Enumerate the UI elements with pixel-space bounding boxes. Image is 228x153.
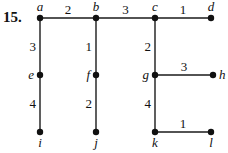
node-a <box>37 15 43 21</box>
problem-number: 15. <box>3 9 22 25</box>
node-label-g: g <box>143 67 150 82</box>
edge-weight-e-i: 4 <box>30 96 37 111</box>
edge-weight-k-l: 1 <box>180 116 187 131</box>
node-label-d: d <box>208 0 215 14</box>
node-label-e: e <box>28 67 34 82</box>
edge-weight-f-j: 2 <box>86 96 93 111</box>
edge-weight-a-b: 2 <box>65 2 72 17</box>
edge-weight-g-k: 4 <box>145 96 152 111</box>
edge-weights-group: 23134122341 <box>30 2 188 131</box>
node-label-f: f <box>86 67 92 82</box>
node-label-l: l <box>209 135 213 150</box>
edges-group <box>40 18 213 132</box>
node-d <box>208 15 214 21</box>
weighted-tree-diagram: 15. 23134122341 abcdefghijkl <box>0 0 228 153</box>
node-label-c: c <box>152 0 158 14</box>
edge-weight-g-h: 3 <box>181 59 188 74</box>
node-label-k: k <box>152 135 158 150</box>
node-h <box>210 72 216 78</box>
edge-weight-c-d: 1 <box>180 2 187 17</box>
edge-weight-b-c: 3 <box>122 2 129 17</box>
edge-weight-a-e: 3 <box>30 39 37 54</box>
node-f <box>93 72 99 78</box>
node-c <box>152 15 158 21</box>
edge-weight-b-f: 1 <box>86 39 93 54</box>
node-e <box>37 72 43 78</box>
node-label-j: j <box>92 135 98 150</box>
node-label-b: b <box>93 0 100 14</box>
node-label-a: a <box>37 0 44 14</box>
node-g <box>152 72 158 78</box>
node-label-i: i <box>38 135 42 150</box>
edge-weight-c-g: 2 <box>145 39 152 54</box>
node-label-h: h <box>219 67 226 82</box>
node-b <box>93 15 99 21</box>
